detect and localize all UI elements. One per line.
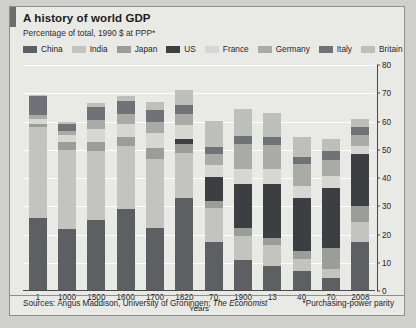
legend-label: Japan [135, 44, 158, 54]
bar-70[interactable] [322, 139, 340, 291]
bar-segment-japan [293, 251, 311, 259]
bar-segment-germany [175, 114, 193, 125]
bar-1600[interactable] [117, 96, 135, 291]
bar-segment-france [351, 146, 369, 154]
legend-item-italy[interactable]: Italy [319, 44, 352, 54]
legend-swatch-icon [319, 46, 333, 53]
y-axis-tick-mark [377, 178, 380, 179]
bar-segment-germany [205, 154, 223, 165]
chart-card: A history of world GDP Percentage of tot… [9, 6, 405, 316]
y-axis-tick-mark [377, 121, 380, 122]
bar-segment-germany [322, 160, 340, 177]
legend-item-china[interactable]: China [23, 44, 63, 54]
bar-segment-britain [175, 90, 193, 105]
bar-2008[interactable] [351, 119, 369, 291]
bar-segment-france [87, 129, 105, 141]
chart-subtitle: Percentage of total, 1990 $ at PPP* [23, 28, 155, 38]
bar-segment-france [234, 169, 252, 184]
bar-segment-france [146, 133, 164, 148]
y-axis-tick-label: 60 [382, 117, 391, 126]
bar-1700[interactable] [146, 102, 164, 291]
bar-1000[interactable] [58, 122, 76, 291]
bar-1900[interactable] [234, 109, 252, 291]
legend-label: France [223, 44, 249, 54]
legend-item-britain[interactable]: Britain [361, 44, 403, 54]
bar-segment-france [58, 135, 76, 142]
legend-item-germany[interactable]: Germany [258, 44, 310, 54]
legend-label: India [90, 44, 108, 54]
y-axis-tick-label: 40 [382, 174, 391, 183]
bar-segment-japan [58, 142, 76, 150]
y-axis-tick-mark [377, 291, 380, 292]
bar-segment-italy [175, 105, 193, 114]
bar-segment-india [117, 146, 135, 210]
bar-segment-germany [293, 164, 311, 186]
bar-segment-italy [117, 101, 135, 113]
bar-70[interactable] [205, 121, 223, 291]
bar-segment-china [117, 209, 135, 291]
bar-segment-germany [87, 120, 105, 129]
bar-segment-india [263, 245, 281, 266]
bar-segment-france [205, 165, 223, 177]
legend-swatch-icon [117, 46, 131, 53]
bar-segment-germany [263, 145, 281, 170]
bar-segment-japan [351, 206, 369, 222]
bar-segment-japan [322, 248, 340, 270]
y-axis-tick-mark [377, 93, 380, 94]
bar-1[interactable] [29, 95, 47, 291]
legend-swatch-icon [258, 46, 272, 53]
bar-13[interactable] [263, 113, 281, 291]
footnote-text: *Purchasing-power parity [303, 299, 394, 308]
legend-item-japan[interactable]: Japan [117, 44, 158, 54]
legend-label: China [41, 44, 63, 54]
bar-segment-britain [263, 113, 281, 136]
y-axis-tick-label: 50 [382, 145, 391, 154]
bar-segment-italy [87, 107, 105, 120]
bar-segment-china [146, 228, 164, 291]
y-axis-tick-label: 80 [382, 61, 391, 70]
bar-segment-france [117, 124, 135, 137]
legend-swatch-icon [361, 46, 375, 53]
legend-swatch-icon [166, 46, 180, 53]
bar-segment-china [175, 198, 193, 291]
bar-segment-india [87, 151, 105, 220]
bar-segment-britain [205, 121, 223, 147]
bar-segment-italy [205, 147, 223, 154]
bar-segment-india [322, 269, 340, 278]
bar-segment-britain [351, 119, 369, 127]
bar-segment-japan [234, 228, 252, 235]
bar-segment-china [87, 220, 105, 291]
bar-segment-china [351, 242, 369, 291]
y-axis-tick-mark [377, 65, 380, 66]
bar-segment-italy [234, 136, 252, 144]
legend-item-france[interactable]: France [205, 44, 249, 54]
bar-segment-germany [234, 144, 252, 169]
y-axis: 01020304050607080 [376, 65, 406, 291]
bar-segment-us [205, 177, 223, 202]
legend-item-india[interactable]: India [72, 44, 108, 54]
bar-segment-germany [351, 135, 369, 146]
bar-segment-france [175, 125, 193, 139]
chart-screenshot: A history of world GDP Percentage of tot… [0, 0, 416, 328]
bar-1500[interactable] [87, 103, 105, 291]
bar-1820[interactable] [175, 90, 193, 291]
bar-segment-britain [293, 137, 311, 156]
bar-segment-india [58, 150, 76, 229]
accent-bar [10, 7, 16, 27]
bar-40[interactable] [293, 137, 311, 291]
legend-swatch-icon [72, 46, 86, 53]
bar-segment-us [234, 184, 252, 229]
legend-label: Italy [337, 44, 352, 54]
bar-segment-france [263, 169, 281, 184]
legend-item-us[interactable]: US [166, 44, 196, 54]
bar-segment-china [234, 260, 252, 291]
bar-segment-japan [263, 238, 281, 245]
y-axis-tick-label: 10 [382, 258, 391, 267]
bar-segment-italy [263, 137, 281, 145]
bar-segment-britain [146, 102, 164, 110]
bar-segment-italy [293, 157, 311, 164]
plot-area [23, 65, 375, 291]
bar-segment-japan [146, 148, 164, 160]
y-axis-tick-label: 70 [382, 89, 391, 98]
legend-label: Britain [379, 44, 403, 54]
